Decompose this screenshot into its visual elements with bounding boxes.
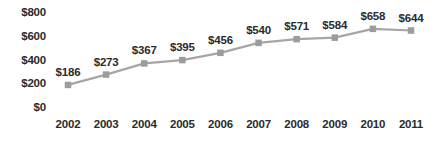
data-point-label: $456 xyxy=(208,34,233,46)
data-point-label: $644 xyxy=(399,12,424,24)
x-axis-tick-label: 2003 xyxy=(94,118,119,131)
x-axis-tick-label: 2009 xyxy=(322,118,347,131)
x-axis-tick-label: 2007 xyxy=(246,118,271,131)
data-point-label: $395 xyxy=(170,41,195,53)
data-point-label: $571 xyxy=(284,20,309,32)
x-axis-tick-label: 2004 xyxy=(132,118,157,131)
data-point-label: $584 xyxy=(322,19,347,31)
data-point-label: $540 xyxy=(246,24,271,36)
data-point-label: $367 xyxy=(132,44,157,56)
x-axis-tick-label: 2006 xyxy=(208,118,233,131)
x-axis-tick-label: 2008 xyxy=(284,118,309,131)
x-axis-tick-label: 2002 xyxy=(56,118,81,131)
x-axis-tick-label: 2010 xyxy=(360,118,385,131)
data-point-label: $186 xyxy=(56,66,81,78)
data-point-label: $273 xyxy=(94,56,119,68)
x-axis-tick-label: 2005 xyxy=(170,118,195,131)
data-point-label: $658 xyxy=(360,10,385,22)
line-chart: $800$600$400$200$0 200220032004200520062… xyxy=(0,0,441,143)
x-axis-tick-label: 2011 xyxy=(399,118,423,131)
